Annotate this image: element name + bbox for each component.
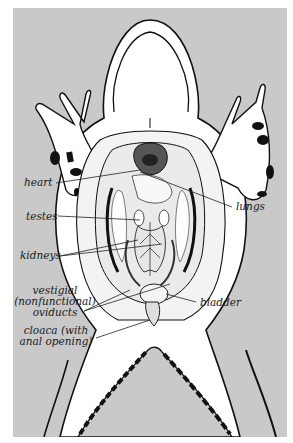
label-testes: testes — [26, 211, 58, 222]
label-bladder: bladder — [200, 297, 241, 308]
label-vestigial-oviducts: vestigial (nonfunctional) oviducts — [14, 285, 96, 318]
testis-right — [159, 210, 169, 226]
diagram-panel — [13, 8, 287, 437]
label-vestigial-line3: oviducts — [14, 307, 96, 318]
label-cloaca-line2: anal opening) — [14, 336, 98, 347]
label-lungs: lungs — [236, 201, 265, 212]
testis-left — [134, 210, 144, 226]
label-kidneys: kidneys — [20, 250, 61, 261]
label-heart: heart — [24, 177, 52, 188]
frog-anatomy-illustration — [13, 8, 287, 437]
bladder-organ — [140, 284, 168, 304]
label-cloaca: cloaca (with anal opening) — [14, 325, 98, 347]
